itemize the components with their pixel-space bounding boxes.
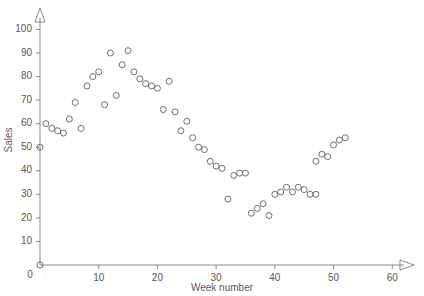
y-tick-label: 100 bbox=[15, 23, 32, 34]
data-point bbox=[72, 99, 78, 105]
y-tick-label: 20 bbox=[21, 212, 33, 223]
y-tick-label: 80 bbox=[21, 70, 33, 81]
data-point bbox=[90, 74, 96, 80]
data-point bbox=[102, 102, 108, 108]
data-point bbox=[313, 191, 319, 197]
y-tick-label: 50 bbox=[21, 141, 33, 152]
x-tick-label: 60 bbox=[387, 272, 399, 283]
y-tick-label: 90 bbox=[21, 47, 33, 58]
y-axis-title: Sales bbox=[3, 127, 14, 152]
y-tick-label: 30 bbox=[21, 188, 33, 199]
data-point bbox=[266, 213, 272, 219]
data-point bbox=[237, 170, 243, 176]
data-point bbox=[149, 83, 155, 89]
data-point bbox=[319, 151, 325, 157]
data-point bbox=[55, 128, 61, 134]
data-point bbox=[260, 201, 266, 207]
data-point bbox=[295, 184, 301, 190]
data-point bbox=[254, 205, 260, 211]
data-point bbox=[331, 142, 337, 148]
data-point bbox=[166, 78, 172, 84]
data-point bbox=[301, 187, 307, 193]
data-point bbox=[225, 196, 231, 202]
data-point bbox=[154, 85, 160, 91]
data-point bbox=[284, 184, 290, 190]
x-tick-label: 50 bbox=[328, 272, 340, 283]
data-point bbox=[342, 135, 348, 141]
data-point bbox=[119, 62, 125, 68]
data-point bbox=[125, 48, 131, 54]
data-point bbox=[231, 172, 237, 178]
data-point bbox=[107, 50, 113, 56]
data-point bbox=[289, 189, 295, 195]
data-point bbox=[184, 118, 190, 124]
data-point bbox=[248, 210, 254, 216]
data-point bbox=[219, 165, 225, 171]
y-tick-label: 10 bbox=[21, 235, 33, 246]
data-point bbox=[172, 109, 178, 115]
data-point bbox=[49, 125, 55, 131]
x-tick-label: 20 bbox=[152, 272, 164, 283]
x-tick-group: 102030405060 bbox=[93, 265, 398, 283]
data-point bbox=[66, 116, 72, 122]
data-point bbox=[113, 92, 119, 98]
y-tick-label: 40 bbox=[21, 164, 33, 175]
data-point bbox=[178, 128, 184, 134]
origin-label: 0 bbox=[27, 269, 33, 280]
y-tick-label: 70 bbox=[21, 94, 33, 105]
y-tick-label: 60 bbox=[21, 117, 33, 128]
data-point bbox=[313, 158, 319, 164]
data-point bbox=[242, 170, 248, 176]
data-point bbox=[60, 130, 66, 136]
scatter-chart: 102030405060708090100 102030405060 0 Wee… bbox=[0, 0, 424, 296]
data-point bbox=[78, 125, 84, 131]
data-point bbox=[96, 69, 102, 75]
data-point bbox=[207, 158, 213, 164]
x-tick-label: 40 bbox=[269, 272, 281, 283]
plot-area: 102030405060708090100 102030405060 0 Wee… bbox=[0, 0, 424, 296]
data-point bbox=[213, 163, 219, 169]
data-point bbox=[84, 83, 90, 89]
data-point bbox=[201, 147, 207, 153]
y-axis bbox=[35, 8, 45, 265]
y-tick-group: 102030405060708090100 bbox=[15, 23, 40, 246]
data-point bbox=[43, 121, 49, 127]
data-point bbox=[160, 107, 166, 113]
data-point bbox=[272, 191, 278, 197]
data-point bbox=[137, 76, 143, 82]
x-axis bbox=[40, 260, 414, 270]
data-point bbox=[131, 69, 137, 75]
x-tick-label: 10 bbox=[93, 272, 105, 283]
data-point bbox=[307, 191, 313, 197]
data-point bbox=[190, 135, 196, 141]
data-point bbox=[143, 81, 149, 87]
data-point bbox=[196, 144, 202, 150]
data-point bbox=[336, 137, 342, 143]
data-point-group bbox=[37, 48, 348, 268]
x-axis-title: Week number bbox=[191, 282, 254, 293]
data-point bbox=[325, 154, 331, 160]
data-point bbox=[278, 189, 284, 195]
